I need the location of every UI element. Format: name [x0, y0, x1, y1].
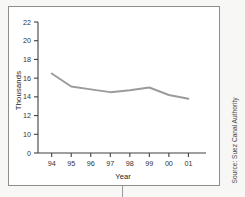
x-axis: 9495969798990001: [38, 153, 206, 168]
svg-text:99: 99: [145, 159, 153, 168]
line-chart: 010121416182022 9495969798990001: [0, 0, 245, 197]
svg-text:97: 97: [106, 159, 114, 168]
svg-text:94: 94: [48, 159, 56, 168]
svg-text:0: 0: [27, 149, 31, 158]
svg-text:95: 95: [67, 159, 75, 168]
data-series-group: [52, 73, 189, 98]
svg-text:20: 20: [23, 36, 31, 45]
source-note: Source: Suez Canal Authority: [231, 34, 238, 184]
y-axis: 010121416182022: [23, 18, 38, 158]
svg-text:18: 18: [23, 55, 31, 64]
y-axis-title: Thousands: [14, 56, 23, 126]
svg-text:22: 22: [23, 18, 31, 27]
svg-text:98: 98: [126, 159, 134, 168]
svg-text:14: 14: [23, 92, 31, 101]
svg-text:16: 16: [23, 74, 31, 83]
svg-text:96: 96: [87, 159, 95, 168]
x-axis-title: Year: [38, 172, 208, 181]
svg-text:01: 01: [184, 159, 192, 168]
figure-container: 010121416182022 9495969798990001 Thousan…: [0, 0, 245, 197]
svg-text:12: 12: [23, 111, 31, 120]
svg-text:10: 10: [23, 130, 31, 139]
svg-text:00: 00: [165, 159, 173, 168]
